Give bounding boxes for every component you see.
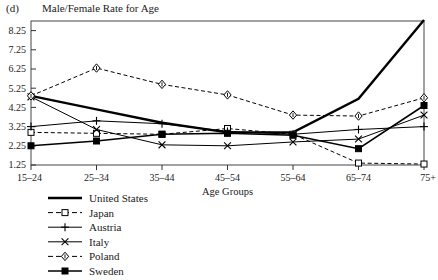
y-tick-label: 4.25	[9, 102, 27, 113]
y-tick-label: 1.25	[9, 159, 27, 170]
data-point-marker	[62, 268, 68, 274]
data-point-marker	[61, 252, 68, 260]
x-tick-label: 55–64	[281, 172, 306, 183]
data-point-marker	[61, 223, 69, 231]
legend-label: Austria	[89, 221, 122, 233]
data-point-marker	[94, 138, 100, 144]
data-point-marker	[421, 161, 427, 167]
data-point-marker	[93, 117, 101, 125]
chart-series	[27, 20, 428, 167]
legend-label: Sweden	[89, 265, 124, 277]
x-tick-label: 65–74	[346, 172, 371, 183]
data-point-marker	[356, 146, 362, 152]
y-tick-label: 2.25	[9, 140, 27, 151]
data-point-marker	[289, 111, 296, 119]
x-axis-title: Age Groups	[202, 186, 253, 197]
legend-item-austria: Austria	[48, 221, 122, 233]
y-tick-label: 3.25	[9, 121, 27, 132]
data-point-marker	[355, 125, 363, 133]
data-point-marker	[224, 91, 231, 99]
legend-item-japan: Japan	[48, 207, 115, 219]
legend-label: Italy	[89, 236, 110, 248]
x-tick-label: 15–24	[17, 172, 42, 183]
legend-label: United States	[89, 192, 148, 204]
y-tick-label: 7.25	[9, 44, 27, 55]
figure-panel: (d) Male/Female Rate for Age 1.252.253.2…	[0, 0, 438, 280]
series-line-united-states	[31, 20, 424, 132]
data-point-marker	[421, 102, 427, 108]
data-point-marker	[420, 94, 427, 102]
data-point-marker	[28, 143, 34, 149]
x-tick-label: 25–34	[84, 172, 109, 183]
line-chart: 1.252.253.254.255.256.257.258.2515–2425–…	[0, 0, 438, 280]
x-tick-label: 75+	[420, 172, 436, 183]
legend-item-italy: Italy	[48, 236, 110, 248]
data-point-marker	[158, 80, 165, 88]
data-point-marker	[62, 210, 68, 216]
chart-legend: United StatesJapanAustriaItalyPolandSwed…	[48, 192, 148, 277]
data-point-marker	[225, 130, 231, 136]
x-tick-label: 45–54	[215, 172, 240, 183]
y-tick-label: 6.25	[9, 63, 27, 74]
legend-item-sweden: Sweden	[48, 265, 124, 277]
legend-label: Japan	[89, 207, 115, 219]
legend-item-united-states: United States	[48, 192, 148, 204]
legend-label: Poland	[89, 250, 120, 262]
data-point-marker	[158, 120, 166, 128]
x-tick-label: 35–44	[150, 172, 175, 183]
data-point-marker	[420, 123, 428, 131]
legend-item-poland: Poland	[48, 250, 120, 262]
axis-tick-labels: 1.252.253.254.255.256.257.258.2515–2425–…	[9, 25, 437, 197]
data-point-marker	[356, 160, 362, 166]
data-point-marker	[355, 112, 362, 120]
data-point-marker	[159, 131, 165, 137]
y-tick-label: 8.25	[9, 25, 27, 36]
data-point-marker	[290, 132, 296, 138]
y-tick-label: 5.25	[9, 83, 27, 94]
data-point-marker	[93, 64, 100, 72]
